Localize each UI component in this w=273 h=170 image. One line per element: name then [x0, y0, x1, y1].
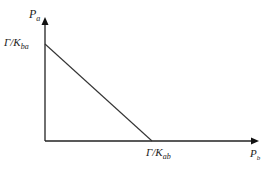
- boundary-line: [45, 44, 152, 141]
- x-axis-label: Pb: [249, 147, 261, 162]
- y-intercept-label: Γ/Kba: [3, 36, 29, 51]
- diagram: Pa Γ/Kba Γ/Kab Pb: [0, 0, 273, 170]
- y-axis-arrow-icon: [42, 17, 49, 25]
- y-axis-label: Pa: [28, 7, 40, 23]
- x-intercept-label: Γ/Kab: [145, 146, 171, 161]
- x-axis-arrow-icon: [251, 138, 259, 145]
